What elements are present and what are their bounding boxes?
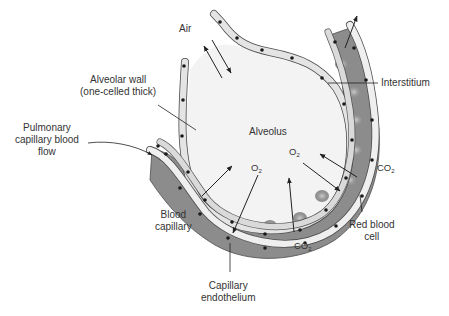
- alveolus-label: Alveolus: [249, 126, 287, 138]
- co2-label-right: CO2: [377, 162, 395, 174]
- o2-label-center: O2: [251, 162, 262, 174]
- pulmonary-label-line1: Pulmonary: [15, 122, 79, 134]
- capillary-endothelium-label-line2: endothelium: [201, 292, 255, 304]
- alveolus-diagram: [0, 0, 449, 316]
- co2-label-bottom: CO2: [294, 240, 312, 252]
- alveolar-wall-label: Alveolar wall (one-celled thick): [80, 74, 156, 98]
- red-blood-cell-label-line1: Red blood: [349, 219, 395, 231]
- blood-capillary-label-line2: capillary: [155, 221, 192, 233]
- blood-capillary-label-line1: Blood: [155, 209, 192, 221]
- red-blood-cell-label: Red blood cell: [349, 219, 395, 243]
- pulmonary-label-line2: capillary blood: [15, 134, 79, 146]
- air-label: Air: [179, 23, 191, 35]
- pulmonary-capillary-blood-flow-label: Pulmonary capillary blood flow: [15, 122, 79, 158]
- pulmonary-flow-leader: [88, 142, 152, 155]
- pulmonary-label-line3: flow: [15, 146, 79, 158]
- o2-label-right: O2: [289, 146, 300, 158]
- alveolar-wall-label-line1: Alveolar wall: [80, 74, 156, 86]
- alveolar-wall-label-line2: (one-celled thick): [80, 86, 156, 98]
- capillary-endothelium-label: Capillary endothelium: [201, 280, 255, 304]
- capillary-endothelium-label-line1: Capillary: [201, 280, 255, 292]
- red-blood-cell-label-line2: cell: [349, 231, 395, 243]
- blood-capillary-label: Blood capillary: [155, 209, 192, 233]
- interstitium-label: Interstitium: [381, 77, 430, 89]
